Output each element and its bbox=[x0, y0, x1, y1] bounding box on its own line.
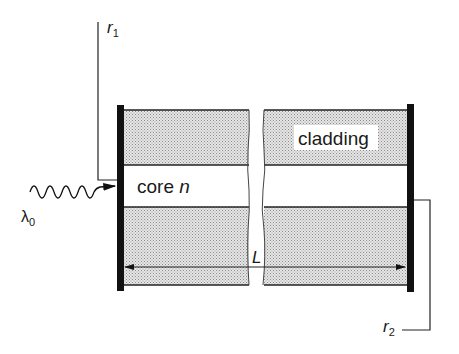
wavelength-label: λ0 bbox=[21, 208, 35, 228]
mirror-right bbox=[407, 104, 414, 292]
fiber-cavity-diagram: cladding core n r1 r2 λ0 L bbox=[0, 0, 459, 354]
r1-label: r1 bbox=[107, 18, 119, 39]
cladding-bottom-right bbox=[264, 207, 407, 285]
cladding-bottom-left bbox=[123, 207, 249, 285]
cladding-top-left bbox=[123, 110, 249, 165]
input-light-wave-icon bbox=[30, 186, 115, 198]
length-label: L bbox=[252, 248, 261, 267]
mirror-left bbox=[117, 105, 124, 291]
core-label: core n bbox=[137, 176, 190, 197]
r1-leader-line bbox=[98, 22, 117, 180]
fiber-left-section bbox=[123, 110, 249, 285]
r2-label: r2 bbox=[383, 317, 395, 338]
cladding-label: cladding bbox=[298, 128, 369, 149]
